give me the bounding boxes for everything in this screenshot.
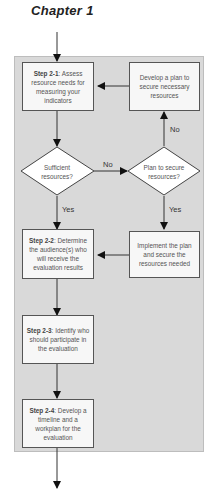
- step-2-4-label: Step 2-4: [29, 407, 54, 414]
- develop-plan-text: Develop a plan to secure necessary resou…: [133, 73, 196, 100]
- implement-plan-text: Implement the plan and secure the resour…: [133, 241, 196, 268]
- step-2-1-box: Step 2-1: Assess resource needs for meas…: [22, 62, 94, 111]
- implement-plan-box: Implement the plan and secure the resour…: [129, 231, 200, 278]
- decision-sufficient-text: Sufficient resources?: [36, 163, 78, 181]
- edge-label-no-vertical: No: [170, 125, 180, 134]
- edge-label-no-horizontal: No: [103, 160, 113, 169]
- step-2-4-box: Step 2-4: Develop a timeline and a workp…: [22, 399, 94, 448]
- step-2-1-label: Step 2-1: [34, 70, 59, 77]
- decision-plan-text: Plan to secure resources?: [138, 163, 190, 181]
- edge-label-yes-left: Yes: [62, 205, 74, 214]
- develop-plan-box: Develop a plan to secure necessary resou…: [129, 62, 200, 111]
- step-2-3-label: Step 2-3: [27, 327, 52, 334]
- step-2-2-label: Step 2-2: [29, 237, 54, 244]
- step-2-3-box: Step 2-3: Identify who should participat…: [22, 315, 94, 364]
- edge-label-yes-right: Yes: [169, 205, 181, 214]
- step-2-2-box: Step 2-2: Determine the audience(s) who …: [22, 229, 94, 279]
